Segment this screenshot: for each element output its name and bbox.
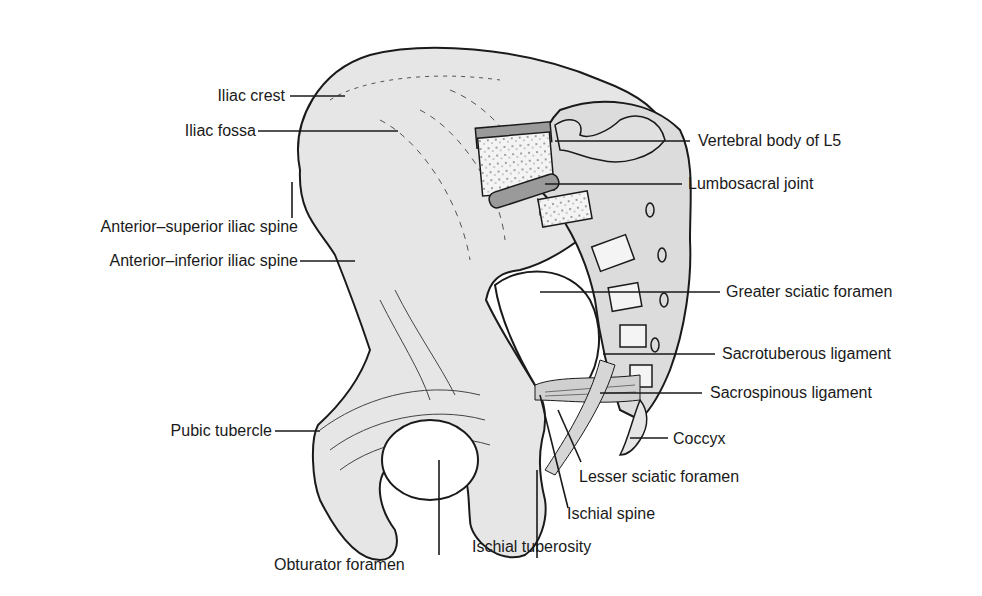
label-sacrospinous-ligament: Sacrospinous ligament — [710, 384, 872, 402]
label-pubic-tubercle: Pubic tubercle — [171, 422, 272, 440]
label-coccyx: Coccyx — [673, 430, 725, 448]
label-anterior-superior-iliac-spine: Anterior–superior iliac spine — [101, 218, 298, 236]
label-lumbosacral-joint: Lumbosacral joint — [688, 175, 813, 193]
label-lesser-sciatic-foramen: Lesser sciatic foramen — [579, 468, 739, 486]
label-obturator-foramen: Obturator foramen — [274, 556, 405, 574]
label-anterior-inferior-iliac-spine: Anterior–inferior iliac spine — [109, 252, 298, 270]
label-greater-sciatic-foramen: Greater sciatic foramen — [726, 283, 892, 301]
label-vertebral-body-l5: Vertebral body of L5 — [698, 132, 841, 150]
label-sacrotuberous-ligament: Sacrotuberous ligament — [722, 345, 891, 363]
obturator-foramen-shape — [382, 420, 478, 500]
pelvis-diagram: Iliac crest Iliac fossa Anterior–superio… — [0, 0, 982, 596]
label-ischial-spine: Ischial spine — [567, 505, 655, 523]
label-iliac-fossa: Iliac fossa — [185, 122, 256, 140]
label-ischial-tuberosity: Ischial tuberosity — [472, 538, 591, 556]
label-iliac-crest: Iliac crest — [217, 87, 285, 105]
